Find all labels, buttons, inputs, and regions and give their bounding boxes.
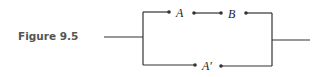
- figure-container: Figure 9.5 A B A′: [0, 0, 327, 77]
- switch-b-terminal-left: [219, 11, 223, 15]
- switch-a-terminal-right: [192, 11, 196, 15]
- switch-a-terminal-left: [167, 10, 171, 14]
- switch-a-prime-label: A′: [201, 59, 212, 73]
- switch-b-label: B: [228, 7, 236, 21]
- switch-b-terminal-right: [244, 11, 248, 15]
- switching-circuit-diagram: A B A′: [0, 0, 327, 77]
- switch-a-prime-terminal-left: [193, 63, 197, 67]
- switch-a-label: A: [175, 6, 184, 20]
- switch-a-prime-terminal-right: [219, 64, 223, 68]
